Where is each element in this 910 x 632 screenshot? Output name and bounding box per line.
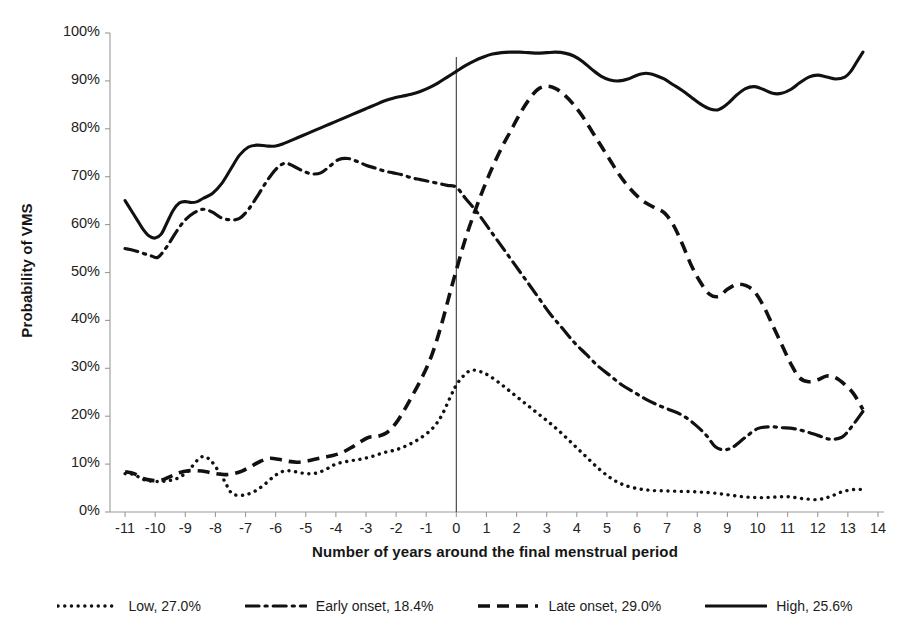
chart-canvas (0, 0, 910, 632)
chart-legend: Low, 27.0%Early onset, 18.4%Late onset, … (0, 592, 910, 620)
legend-item[interactable]: Low, 27.0% (57, 598, 200, 614)
legend-item[interactable]: Late onset, 29.0% (477, 598, 661, 614)
legend-key-dotted-icon (57, 600, 119, 612)
x-tick-label: 14 (858, 520, 898, 536)
legend-key-dashdot-icon (245, 600, 307, 612)
series-line-late-onset (125, 86, 863, 481)
y-tick-label: 100% (46, 23, 100, 39)
y-tick-label: 0% (46, 502, 100, 518)
y-tick-label: 70% (46, 167, 100, 183)
legend-label: Low, 27.0% (128, 598, 200, 614)
series-line-early-onset (125, 158, 863, 449)
y-tick-label: 50% (46, 263, 100, 279)
legend-key-dashed-icon (477, 600, 539, 612)
series-line-low (125, 370, 863, 500)
legend-item[interactable]: Early onset, 18.4% (245, 598, 434, 614)
legend-label: Late onset, 29.0% (548, 598, 661, 614)
series-line-high (125, 52, 863, 238)
y-tick-label: 30% (46, 358, 100, 374)
y-tick-label: 80% (46, 119, 100, 135)
y-tick-label: 20% (46, 406, 100, 422)
y-tick-label: 90% (46, 71, 100, 87)
y-axis-title: Probability of VMS (18, 161, 35, 381)
legend-key-solid-icon (705, 600, 767, 612)
legend-item[interactable]: High, 25.6% (705, 598, 852, 614)
y-tick-label: 40% (46, 310, 100, 326)
plot-area (0, 0, 910, 632)
legend-label: High, 25.6% (776, 598, 852, 614)
x-axis-title: Number of years around the final menstru… (110, 543, 880, 560)
y-tick-label: 10% (46, 454, 100, 470)
y-tick-label: 60% (46, 215, 100, 231)
chart-figure: Probability of VMS Number of years aroun… (0, 0, 910, 632)
legend-label: Early onset, 18.4% (316, 598, 434, 614)
